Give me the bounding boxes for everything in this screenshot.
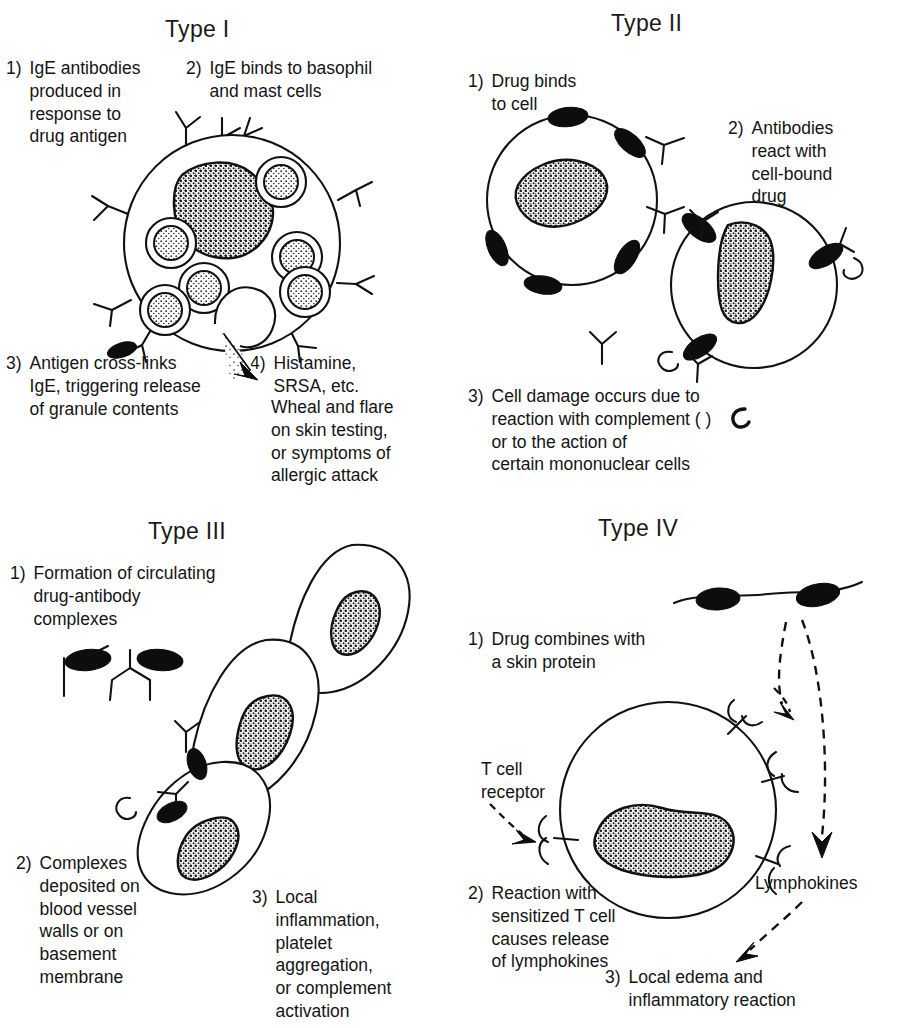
step-number: 3) xyxy=(605,966,629,989)
step-number: 1) xyxy=(468,70,492,93)
free-antibody xyxy=(646,137,684,164)
endothelial-cell-1 xyxy=(288,545,409,693)
figure-canvas: Type I 1) IgE antibodies produced in res… xyxy=(0,0,902,1028)
t-cell-receptor xyxy=(728,700,762,734)
dashed-arrow-3-shaft xyxy=(750,902,802,950)
panel-type-4: Type IV 1) Drug combines with a skin pro… xyxy=(450,500,902,1028)
panel-title-type-4: Type IV xyxy=(598,515,678,542)
step-number: 1) xyxy=(6,57,30,80)
bound-antibody-right xyxy=(826,228,863,279)
complement-symbol xyxy=(844,258,863,279)
panel-type-3: Type III 1) Formation of circulating dru… xyxy=(0,500,452,1028)
panel-title-type-1: Type I xyxy=(165,16,229,43)
drug-molecule xyxy=(805,238,847,273)
step-4-1: 1) Drug combines with a skin protein xyxy=(468,628,698,674)
step-number: 4) xyxy=(250,352,274,375)
cell-nucleus xyxy=(718,223,773,324)
drug-molecule xyxy=(677,208,720,248)
drug-molecule xyxy=(183,746,210,782)
step-1-4-continued: Wheal and flare on skin testing, or symp… xyxy=(271,396,451,487)
step-4-3: 3) Local edema and inflammatory reaction xyxy=(605,966,875,1012)
panel-type-2: Type II 1) Drug binds to cell 2) Antibod… xyxy=(450,0,902,500)
step-text: IgE binds to basophil and mast cells xyxy=(210,57,416,103)
cell-nucleus xyxy=(516,160,607,227)
t-cell-receptor-label: T cell receptor xyxy=(481,758,591,804)
drug-molecule xyxy=(679,329,721,365)
free-antibody xyxy=(590,332,616,364)
step-number: 1) xyxy=(468,628,492,651)
step-text: Reaction with sensitized T cell causes r… xyxy=(492,882,668,973)
step-3-2: 2) Complexes deposited on blood vessel w… xyxy=(16,852,181,989)
dashed-arrow-1-shaft xyxy=(779,622,786,704)
step-text: Antigen cross-links IgE, triggering rele… xyxy=(30,352,246,420)
cell-membrane xyxy=(487,115,657,285)
deposited-complex-upper xyxy=(175,721,211,782)
complement-symbol xyxy=(116,798,136,819)
granule xyxy=(179,263,229,313)
step-2-2: 2) Antibodies react with cell-bound drug xyxy=(728,117,893,208)
t-cell-receptor xyxy=(762,752,798,792)
granule xyxy=(272,232,322,282)
step-2-1: 1) Drug binds to cell xyxy=(468,70,638,116)
ige-receptor-group xyxy=(92,112,374,362)
step-number: 3) xyxy=(252,886,276,909)
step-text: Cell damage occurs due to reaction with … xyxy=(492,385,798,476)
drug-molecule xyxy=(609,236,644,278)
degranulation-pocket xyxy=(215,287,275,347)
granule xyxy=(280,267,330,317)
receptor-pointer-head xyxy=(512,830,536,844)
cell-nucleus xyxy=(178,817,239,879)
dashed-arrow-1b xyxy=(774,688,790,712)
step-number: 3) xyxy=(468,385,492,408)
deposited-complex-lower xyxy=(116,782,190,827)
step-4-2: 2) Reaction with sensitized T cell cause… xyxy=(468,882,668,973)
panel-title-type-3: Type III xyxy=(148,518,226,545)
dashed-arrow-2-head xyxy=(812,832,832,858)
step-text: Drug binds to cell xyxy=(492,70,638,116)
sensitized-t-cell-caption: Sensitized T Cell xyxy=(597,771,728,792)
granule xyxy=(256,157,306,207)
step-text: Formation of circulating drug-antibody c… xyxy=(34,562,260,630)
t-cell-nucleus xyxy=(594,805,733,877)
complement-symbol xyxy=(658,352,678,371)
drug-molecule xyxy=(610,124,650,163)
bound-antibody-bottom xyxy=(658,352,712,382)
step-1-4: 4) Histamine, SRSA, etc. xyxy=(250,352,440,398)
granule xyxy=(140,285,190,335)
free-antibody-group xyxy=(590,137,684,364)
endothelial-cell-2 xyxy=(192,640,318,803)
step-3-1: 1) Formation of circulating drug-antibod… xyxy=(10,562,260,630)
circulating-complex xyxy=(64,646,184,700)
drug-molecule xyxy=(523,273,563,296)
drug-molecule xyxy=(481,227,513,269)
drug-molecule xyxy=(136,648,184,673)
dashed-arrow-3-head xyxy=(736,942,758,962)
step-text: Antibodies react with cell-bound drug xyxy=(752,117,893,208)
cell-membrane xyxy=(192,640,318,803)
cell-nucleus xyxy=(331,591,380,654)
target-cell-lower xyxy=(671,202,847,368)
cell-membrane xyxy=(288,545,409,693)
free-antibody xyxy=(647,207,684,233)
dashed-arrow-2-shaft xyxy=(802,620,825,836)
target-cell-upper xyxy=(481,105,657,296)
step-number: 2) xyxy=(186,57,210,80)
step-number: 1) xyxy=(10,562,34,585)
step-text: IgE antibodies produced in response to d… xyxy=(30,57,166,148)
panel-type-1: Type I 1) IgE antibodies produced in res… xyxy=(0,0,452,500)
drug-molecule xyxy=(154,797,191,827)
step-1-2: 2) IgE binds to basophil and mast cells xyxy=(186,57,416,103)
panel-title-type-2: Type II xyxy=(611,10,682,37)
drug-molecule xyxy=(64,647,112,673)
step-2-3: 3) Cell damage occurs due to reaction wi… xyxy=(468,385,798,476)
t-cell-receptor xyxy=(539,816,578,864)
granule xyxy=(146,218,196,268)
cell-nucleus xyxy=(237,695,293,769)
step-number: 2) xyxy=(728,117,752,140)
step-number: 2) xyxy=(468,882,492,905)
granule-group xyxy=(140,157,330,335)
step-number: 3) xyxy=(6,352,30,375)
receptor-pointer-shaft xyxy=(490,804,522,834)
drug-molecule xyxy=(794,580,842,611)
step-text: Local edema and inflammatory reaction xyxy=(629,966,875,1012)
